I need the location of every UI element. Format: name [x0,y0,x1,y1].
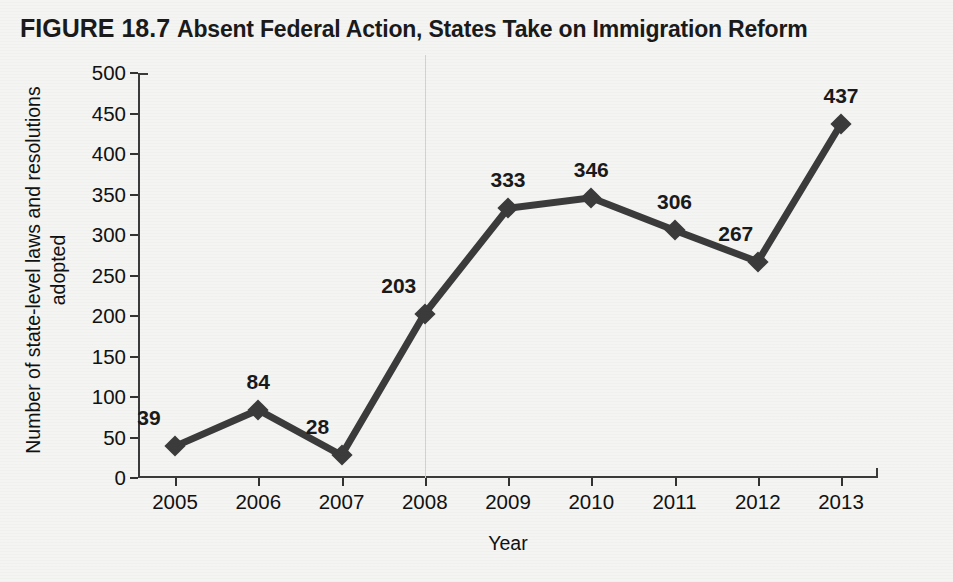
y-tick-mark [130,437,138,439]
page-title: FIGURE 18.7Absent Federal Action, States… [20,14,807,43]
y-tick-label: 400 [92,142,126,166]
x-tick-label: 2011 [652,490,696,514]
y-tick-label: 500 [92,61,126,85]
series-line [138,73,878,478]
y-tick-label: 450 [92,102,126,126]
data-point-label: 84 [247,370,270,394]
x-tick-mark [425,478,427,486]
x-tick-label: 2009 [485,490,531,514]
x-tick-mark [841,478,843,486]
data-point-label: 28 [306,415,329,439]
figure-number: FIGURE 18.7 [20,14,170,42]
y-tick-label: 100 [92,385,126,409]
data-point-label: 333 [490,168,525,192]
y-tick-label: 50 [103,426,126,450]
y-tick-mark [130,234,138,236]
x-tick-label: 2010 [568,490,614,514]
y-tick-label: 150 [92,345,126,369]
y-tick-mark [130,477,138,479]
data-point-label: 306 [657,190,692,214]
x-tick-mark [175,478,177,486]
x-tick-mark [258,478,260,486]
y-tick-label: 250 [92,264,126,288]
y-tick-mark [130,275,138,277]
y-tick-mark [130,315,138,317]
y-tick-mark [130,153,138,155]
x-tick-mark [591,478,593,486]
data-point-label: 346 [574,158,609,182]
data-point-label: 203 [381,274,416,298]
y-tick-mark [130,194,138,196]
y-axis-label: Number of state-level laws and resolutio… [21,60,71,480]
x-tick-label: 2012 [735,490,781,514]
x-tick-mark [758,478,760,486]
y-tick-label: 350 [92,183,126,207]
x-tick-mark [675,478,677,486]
x-tick-label: 2006 [235,490,281,514]
y-tick-label: 0 [115,466,126,490]
y-tick-label: 300 [92,223,126,247]
figure-title-text: Absent Federal Action, States Take on Im… [177,16,807,42]
data-point-label: 267 [718,222,753,246]
x-tick-label: 2007 [319,490,365,514]
plot-area: 050100150200250300350400450500 200520062… [138,73,878,478]
y-tick-mark [130,356,138,358]
x-tick-label: 2013 [818,490,864,514]
y-tick-mark [130,113,138,115]
x-tick-label: 2008 [402,490,448,514]
figure-container: FIGURE 18.7Absent Federal Action, States… [0,0,953,582]
x-tick-label: 2005 [152,490,198,514]
data-point-label: 437 [823,84,858,108]
x-tick-mark [342,478,344,486]
y-tick-label: 200 [92,304,126,328]
data-point-label: 39 [137,406,160,430]
y-tick-mark [130,72,138,74]
y-tick-mark [130,396,138,398]
x-tick-mark [508,478,510,486]
x-axis-label: Year [138,532,878,555]
